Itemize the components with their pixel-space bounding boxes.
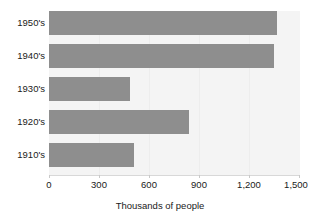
x-axis-line	[49, 175, 300, 176]
bar-1920s[interactable]	[49, 110, 189, 134]
y-axis-label-1940s: 1940's	[0, 44, 45, 68]
y-axis-label-1920s: 1920's	[0, 110, 45, 134]
bar-chart: 1950's 1940's 1930's 1920's 1910's 0	[0, 0, 320, 221]
x-tick-label-1500: 1,500	[284, 179, 308, 190]
plot-area	[49, 11, 300, 175]
y-axis-category-labels: 1950's 1940's 1930's 1920's 1910's	[0, 11, 45, 175]
x-tick-mark-300	[99, 175, 100, 178]
bar-1910s[interactable]	[49, 143, 134, 167]
bar-1940s[interactable]	[49, 44, 274, 68]
x-tick-mark-0	[49, 175, 50, 178]
x-tick-mark-1200	[249, 175, 250, 178]
x-tick-mark-600	[149, 175, 150, 178]
x-tick-label-1200: 1,200	[237, 179, 261, 190]
x-tick-label-0: 0	[46, 179, 51, 190]
gridline-900	[199, 11, 200, 175]
gridline-1200	[249, 11, 250, 175]
x-tick-label-600: 600	[141, 179, 157, 190]
y-axis-label-1950s: 1950's	[0, 11, 45, 35]
x-tick-label-300: 300	[91, 179, 107, 190]
x-tick-mark-900	[199, 175, 200, 178]
gridline-600	[149, 11, 150, 175]
x-tick-mark-1500	[299, 175, 300, 178]
x-tick-label-900: 900	[191, 179, 207, 190]
y-axis-label-1910s: 1910's	[0, 143, 45, 167]
x-axis-title: Thousands of people	[0, 200, 320, 211]
bar-1950s[interactable]	[49, 11, 277, 35]
bar-1930s[interactable]	[49, 77, 130, 101]
y-axis-label-1930s: 1930's	[0, 77, 45, 101]
